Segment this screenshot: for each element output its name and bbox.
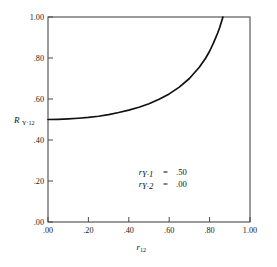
chart-annotations: r Y·1 = .50 r Y·2 = .00 bbox=[139, 167, 187, 191]
y-tick-label-1: .20 bbox=[34, 177, 44, 186]
x-axis-tick-labels: .00 .20 .40 .60 .80 1.00 bbox=[43, 226, 257, 235]
annotation-0-equals: = bbox=[163, 167, 168, 177]
y-tick-label-3: .60 bbox=[34, 95, 44, 104]
x-tick-label-4: .80 bbox=[204, 226, 214, 235]
x-tick-label-2: .40 bbox=[124, 226, 134, 235]
x-tick-label-0: .00 bbox=[43, 226, 53, 235]
y-tick-label-5: 1.00 bbox=[30, 13, 44, 22]
y-axis-title: R Y·12 bbox=[13, 115, 35, 126]
annotation-1-value: .00 bbox=[176, 179, 187, 189]
x-axis-title: r 12 bbox=[136, 242, 146, 253]
x-tick-label-5: 1.00 bbox=[243, 226, 257, 235]
annotation-1-equals: = bbox=[163, 179, 168, 189]
x-axis-title-subscript: 12 bbox=[140, 246, 146, 253]
x-tick-label-3: .60 bbox=[164, 226, 174, 235]
plot-frame bbox=[48, 17, 250, 222]
x-tick-label-1: .20 bbox=[83, 226, 93, 235]
annotation-1-subscript: Y·2 bbox=[142, 181, 154, 191]
annotation-0-subscript: Y·1 bbox=[142, 169, 153, 179]
y-axis-title-symbol: R bbox=[13, 115, 20, 125]
y-tick-label-4: .80 bbox=[34, 54, 44, 63]
annotation-0-value: .50 bbox=[176, 167, 187, 177]
data-curve-series-0 bbox=[48, 17, 223, 120]
y-tick-label-2: .40 bbox=[34, 136, 44, 145]
y-axis-title-subscript: Y·12 bbox=[22, 119, 35, 126]
x-axis-ticks bbox=[48, 217, 250, 222]
chart-plot-area: 1.00 .80 .60 .40 .20 .00 .00 .20 .40 .60… bbox=[0, 0, 277, 267]
chart-figure: 1.00 .80 .60 .40 .20 .00 .00 .20 .40 .60… bbox=[0, 0, 277, 267]
